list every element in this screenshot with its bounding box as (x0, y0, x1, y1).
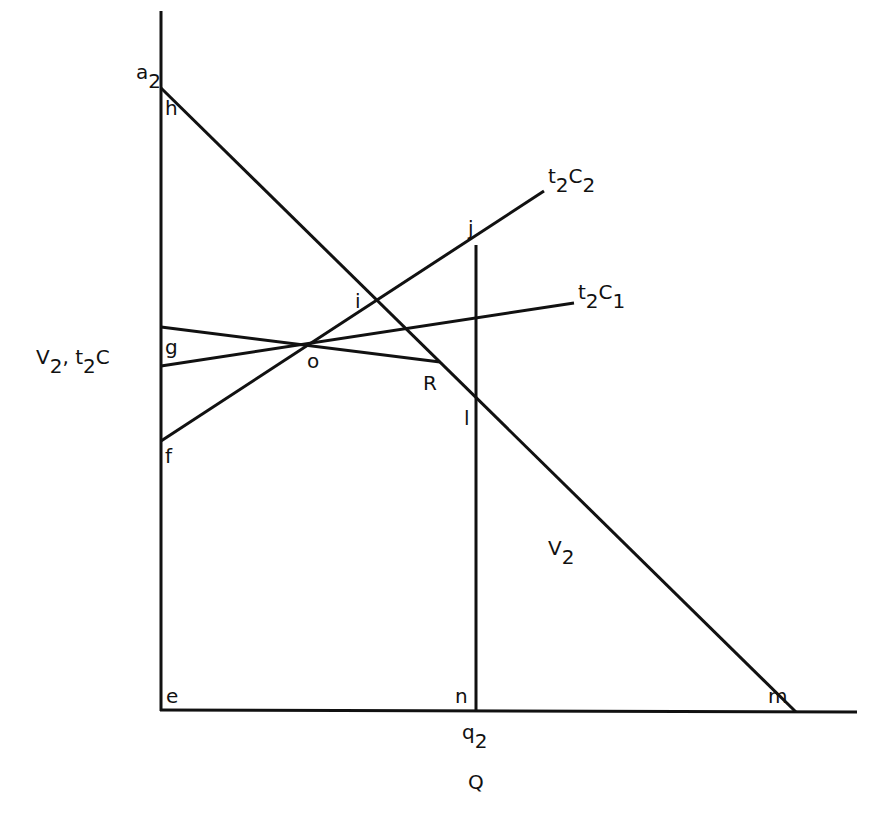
point-q2-label: q2 (462, 722, 487, 742)
point-a2-label: a2 (136, 62, 161, 82)
origin-e-label: e (166, 686, 178, 706)
point-j-label: j (468, 218, 474, 238)
g-to-r-line (161, 327, 440, 362)
t2c2-curve-label: t2C2 (548, 166, 595, 186)
point-m-label: m (768, 686, 787, 706)
x-axis-label: Q (468, 772, 484, 792)
point-i-label: i (355, 291, 361, 311)
point-l-label: l (464, 408, 470, 428)
v2-curve (161, 88, 796, 712)
point-o-label: o (307, 351, 319, 371)
economics-diagram (0, 0, 887, 816)
point-g-label: g (165, 337, 178, 357)
point-n-label: n (455, 686, 468, 706)
horizontal-axis (160, 710, 857, 712)
point-h-label: h (165, 98, 178, 118)
t2c1-curve-label: t2C1 (578, 282, 625, 302)
y-axis-label: V2, t2C (36, 347, 110, 367)
point-r-label: R (423, 373, 437, 393)
v2-curve-label: V2 (548, 538, 574, 558)
point-f-label: f (165, 446, 172, 466)
